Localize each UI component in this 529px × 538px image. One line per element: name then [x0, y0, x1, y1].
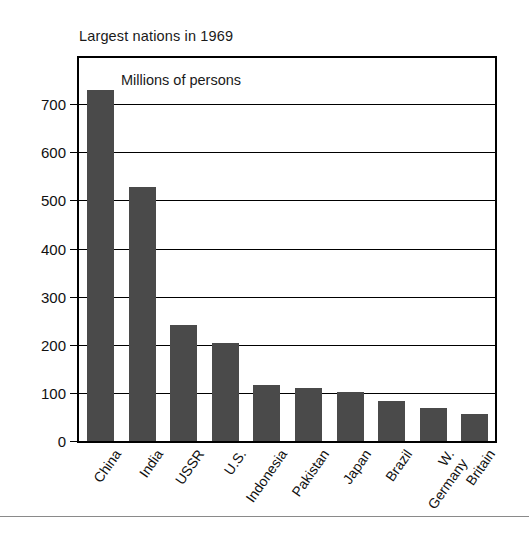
y-axis-tick-label: 100 — [41, 384, 66, 401]
x-axis-labels-group: ChinaIndiaUSSRU.S.IndonesiaPakistanJapan… — [77, 447, 497, 532]
bar-chart-figure: Largest nations in 1969 Millions of pers… — [0, 0, 529, 538]
y-axis-tick — [70, 104, 79, 105]
page-separator-rule — [0, 516, 529, 517]
plot-subtitle: Millions of persons — [121, 72, 241, 88]
y-axis-tick-label: 700 — [41, 96, 66, 113]
plot-inner: Millions of persons 01002003004005006007… — [79, 58, 495, 441]
bar-japan — [337, 392, 364, 441]
bar-britain — [461, 414, 488, 441]
y-axis-tick — [70, 200, 79, 201]
bar-china — [87, 90, 114, 441]
x-axis-label-ussr: USSR — [173, 447, 208, 488]
bar-indonesia — [253, 385, 280, 441]
x-axis-label-japan: Japan — [340, 447, 375, 487]
y-axis-tick-label: 0 — [58, 433, 66, 450]
y-axis-tick-label: 300 — [41, 288, 66, 305]
bar-pakistan — [295, 388, 322, 441]
bar-india — [129, 187, 156, 441]
x-axis-label-india: India — [136, 447, 166, 481]
y-axis-tick — [70, 152, 79, 153]
x-axis-label-china: China — [91, 447, 125, 486]
x-axis-label-pakistan: Pakistan — [289, 447, 333, 500]
y-axis-tick-label: 200 — [41, 336, 66, 353]
y-axis-tick — [70, 297, 79, 298]
bar-ussr — [170, 325, 197, 441]
bar-brazil — [378, 401, 405, 441]
y-axis-tick — [70, 249, 79, 250]
x-axis-label-britain: Britain — [464, 447, 500, 488]
y-axis-tick-label: 400 — [41, 240, 66, 257]
y-axis-tick — [70, 441, 79, 442]
chart-title: Largest nations in 1969 — [79, 28, 233, 44]
bar-w-germany — [420, 408, 447, 441]
x-axis-label-indonesia: Indonesia — [244, 447, 292, 506]
gridline — [79, 152, 495, 153]
x-axis-label-brazil: Brazil — [383, 447, 416, 485]
gridline — [79, 104, 495, 105]
y-axis-tick-label: 500 — [41, 192, 66, 209]
y-axis-tick — [70, 345, 79, 346]
y-axis-tick — [70, 393, 79, 394]
y-axis-tick-label: 600 — [41, 144, 66, 161]
x-axis-label-u-s: U.S. — [221, 447, 249, 478]
bar-u-s — [212, 343, 239, 441]
plot-area: Millions of persons 01002003004005006007… — [77, 56, 497, 443]
